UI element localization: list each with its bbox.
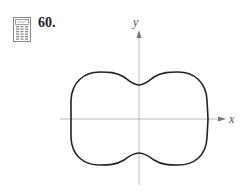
y-axis-arrow-icon (137, 30, 142, 38)
exercise-figure: 60. x y (0, 0, 245, 193)
y-axis-label: y (132, 15, 139, 29)
polar-graph: x y (0, 0, 245, 193)
x-axis-label: x (228, 112, 235, 126)
x-axis-arrow-icon (218, 117, 226, 122)
curve (71, 72, 208, 165)
